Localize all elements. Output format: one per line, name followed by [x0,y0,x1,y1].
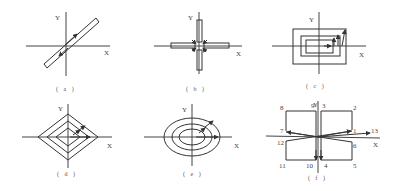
point-11: 11 [279,162,286,170]
y-axis-label: Y [182,106,187,114]
point-5: 5 [353,162,357,170]
panel-a: Y X ( a ) [26,12,110,93]
arrow [203,48,206,52]
point-6: 6 [353,142,357,150]
caption-e: ( e ) [183,171,203,178]
y-axis-label: Y [309,16,314,24]
caption-b: ( b ) [186,86,206,93]
x-axis-label: X [236,50,241,58]
y-axis-label: Y [188,14,193,22]
x-axis-label: X [107,142,112,150]
panel-d: Y X ( d ) [22,104,112,178]
cross-line [286,131,352,141]
x-axis-label: X [234,142,239,150]
point-9: 9 [311,102,315,110]
panel-f: Y X 1 2 3 4 5 6 7 8 9 10 11 12 13 ( f ) [266,101,380,182]
point-3: 3 [322,102,326,110]
path-left-lower [286,141,316,160]
caption-c: ( c ) [306,83,326,90]
point-4: 4 [324,162,328,170]
caption-f: ( f ) [308,175,327,182]
panel-e: Y X ( e ) [144,104,239,178]
arrow [342,30,345,46]
point-10: 10 [306,162,314,170]
x-axis-label: X [104,49,109,57]
panel-c: Y X ( c ) [272,12,366,90]
caption-a: ( a ) [56,86,76,93]
y-axis-label: Y [58,105,63,113]
x-axis-label: X [373,141,378,149]
point-1: 1 [353,127,357,135]
point-2: 2 [353,104,357,112]
panel-b: Y X ( b ) [154,12,242,93]
diagonal-slot [44,18,99,68]
point-8: 8 [280,104,284,112]
point-12: 12 [277,139,285,147]
x-axis-label: X [359,51,364,59]
point-7: 7 [280,127,284,135]
y-axis-label: Y [55,14,60,22]
caption-d: ( d ) [57,171,77,178]
point-13: 13 [371,127,379,135]
path-right-lower [321,142,352,160]
